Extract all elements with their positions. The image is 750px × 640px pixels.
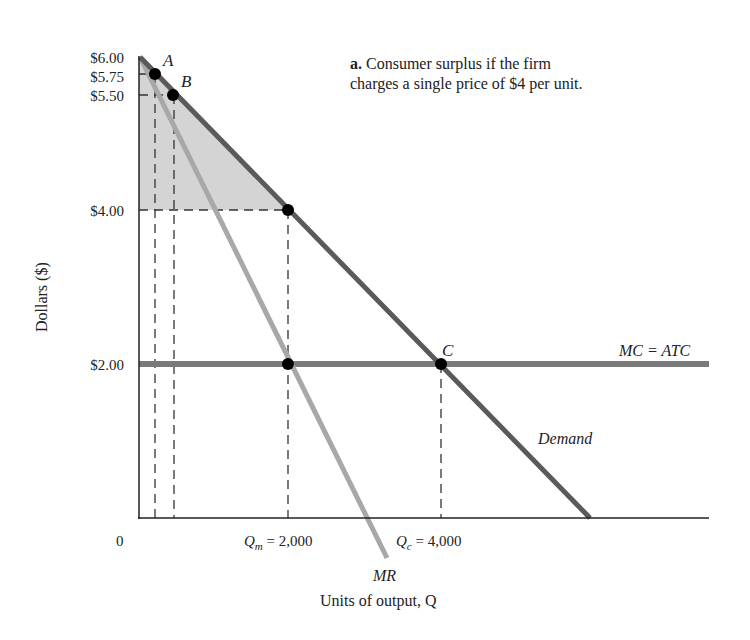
chart: A B C $6.00 $5.75 $5.50 $4.00 $2.00 0 Qm…	[0, 0, 750, 640]
y-tick-label: $6.00	[90, 50, 124, 66]
origin-label: 0	[116, 533, 124, 549]
x-axis-title: Units of output, Q	[320, 592, 437, 610]
chart-title-line2: charges a single price of $4 per unit.	[350, 75, 583, 93]
chart-title-line1: a. Consumer surplus if the firm	[350, 55, 551, 73]
point-c-label: C	[442, 341, 454, 360]
y-tick-label: $2.00	[90, 357, 124, 373]
mc-atc-label: MC = ATC	[618, 342, 691, 359]
point-a	[149, 68, 161, 80]
x-tick-label-qm: Qm = 2,000	[244, 533, 313, 552]
mr-line	[140, 57, 387, 558]
x-tick-label-qc: Qc = 4,000	[396, 533, 461, 552]
y-tick-label: $5.50	[90, 88, 124, 104]
point-b	[167, 89, 179, 101]
y-tick-label: $4.00	[90, 203, 124, 219]
point-mr-at-2	[282, 358, 294, 370]
point-b-label: B	[181, 72, 192, 91]
point-demand-at-4	[282, 204, 294, 216]
y-axis-title: Dollars ($)	[33, 262, 51, 332]
point-a-label: A	[162, 51, 174, 70]
demand-label: Demand	[537, 430, 593, 447]
mr-label: MR	[372, 567, 396, 584]
y-tick-label: $5.75	[90, 69, 124, 85]
demand-line	[140, 57, 590, 518]
